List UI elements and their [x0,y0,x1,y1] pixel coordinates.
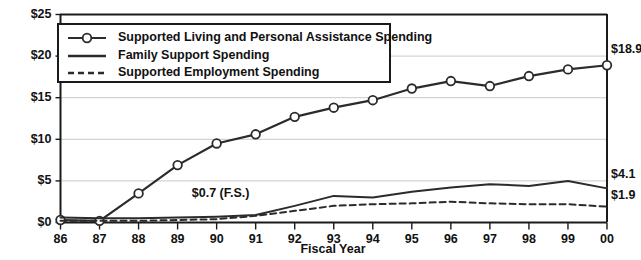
end-label-1: $4.1 [611,167,635,181]
x-axis-tick-label: 94 [366,232,380,246]
data-point-marker [408,84,417,93]
y-axis-tick-label: $20 [31,48,52,62]
data-point-marker [368,96,377,105]
chart-legend[interactable]: Supported Living and Personal Assistance… [58,24,432,82]
y-axis-tick-label: $0 [38,215,52,229]
data-point-marker [134,189,143,198]
annotations-layer: $0.7 (F.S.) [192,186,250,200]
x-axis-tick-label: 96 [444,232,458,246]
data-point-marker [173,161,182,170]
x-axis-tick-label: 95 [405,232,419,246]
y-axis-tick-label: $5 [38,173,52,187]
data-point-marker [603,61,612,70]
y-axis-tick-label: $10 [31,132,52,146]
annotation-label: $0.7 (F.S.) [192,186,250,200]
x-axis-tick-label: 86 [54,232,68,246]
x-axis-title: Fiscal Year [300,242,365,256]
legend-label: Supported Employment Spending [118,65,319,79]
chart-container: $0$5$10$15$20$25 86878889909192939495969… [0,0,641,260]
legend-label: Family Support Spending [118,48,269,62]
data-point-marker [564,65,573,74]
x-axis-tick-label: 88 [132,232,146,246]
x-axis-tick-label: 91 [249,232,263,246]
data-point-marker [329,103,338,112]
data-point-marker [212,139,221,148]
x-axis-tick-label: 97 [483,232,497,246]
x-axis-tick-label: 89 [171,232,185,246]
y-axis-tick-label: $15 [31,90,52,104]
end-label-2: $1.9 [611,188,635,202]
data-point-marker [251,130,260,139]
legend-marker-sample [83,34,92,43]
data-point-marker [447,77,456,86]
data-point-marker [525,72,534,81]
x-axis-tick-label: 90 [210,232,224,246]
x-axis-tick-label: 99 [561,232,575,246]
y-axis-tick-label: $25 [31,7,52,21]
line-chart: $0$5$10$15$20$25 86878889909192939495969… [0,0,641,260]
data-point-marker [290,113,299,122]
legend-label: Supported Living and Personal Assistance… [118,30,432,44]
x-axis-tick-label: 98 [522,232,536,246]
x-axis-tick-label: 00 [600,232,614,246]
legend-item-0[interactable]: Supported Living and Personal Assistance… [68,30,432,44]
data-point-marker [486,82,495,91]
end-label-0: $18.9 [611,42,641,56]
x-axis-tick-label: 87 [93,232,107,246]
